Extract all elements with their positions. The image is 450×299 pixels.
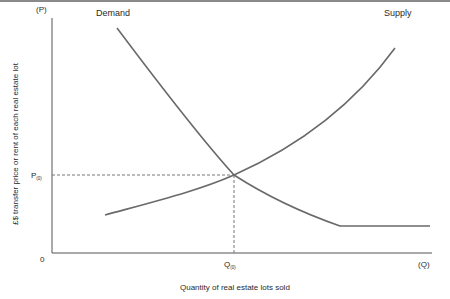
x-axis-end-label: (Q) <box>418 260 430 269</box>
y-axis-end-label: (P) <box>36 5 47 14</box>
price-label: P(0) <box>31 171 42 181</box>
supply-label: Supply <box>384 8 412 18</box>
quantity-label: Q(0) <box>224 260 236 270</box>
x-axis-title: Quantity of real estate lots sold <box>180 283 290 292</box>
demand-curve <box>117 28 430 226</box>
origin-label: 0 <box>40 255 45 264</box>
supply-curve <box>105 48 395 215</box>
y-axis-title: £$ transfer price or rent of each real e… <box>11 62 20 225</box>
chart: Demand Supply (P) (Q) 0 P(0) Q(0) Quanti… <box>0 0 450 299</box>
demand-label: Demand <box>96 8 130 18</box>
